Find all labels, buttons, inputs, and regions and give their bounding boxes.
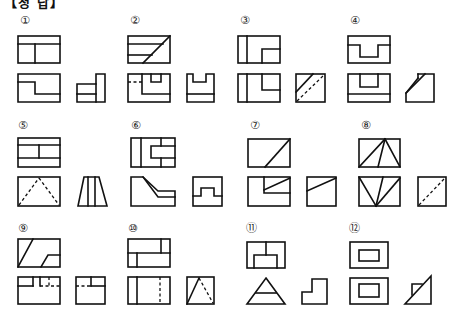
problem-2-front-view	[128, 74, 170, 102]
problem-9-front-view	[18, 277, 60, 304]
orthographic-drawings	[0, 0, 453, 317]
problem-12-top-view	[350, 242, 388, 268]
problem-3-side-view	[296, 74, 325, 102]
problem-9-side-view	[76, 277, 105, 304]
problem-8-top-view	[359, 139, 400, 167]
problem-10-front-view	[128, 277, 170, 304]
problem-10-top-view	[128, 239, 170, 267]
problem-8-side-view	[418, 177, 446, 206]
problem-12-side-view	[405, 276, 431, 304]
problem-1-side-view	[77, 74, 105, 102]
problem-3-top-view	[238, 36, 280, 63]
problem-11-front-view	[247, 278, 285, 304]
problem-9-top-view	[18, 239, 60, 267]
problem-1-front-view	[18, 74, 60, 102]
problem-7-top-view	[248, 139, 290, 167]
problem-12-front-view	[350, 278, 388, 304]
problem-11-side-view	[302, 279, 327, 304]
problem-5-top-view	[18, 138, 60, 167]
problem-7-side-view	[307, 177, 336, 206]
problem-5-side-view	[78, 177, 107, 206]
problem-4-side-view	[406, 74, 434, 102]
problem-7-front-view	[248, 177, 290, 206]
problem-3-front-view	[238, 74, 280, 102]
problem-2-side-view	[187, 74, 214, 102]
problem-6-top-view	[131, 138, 175, 167]
problem-4-top-view	[348, 36, 390, 63]
problem-11-top-view	[247, 242, 285, 268]
problem-6-side-view	[193, 177, 222, 206]
problem-10-side-view	[187, 277, 214, 304]
problem-4-front-view	[348, 74, 390, 102]
problem-8-front-view	[359, 177, 400, 206]
problem-1-top-view	[18, 36, 60, 63]
problem-6-front-view	[131, 177, 175, 206]
problem-2-top-view	[128, 36, 170, 63]
problem-5-front-view	[18, 177, 60, 206]
